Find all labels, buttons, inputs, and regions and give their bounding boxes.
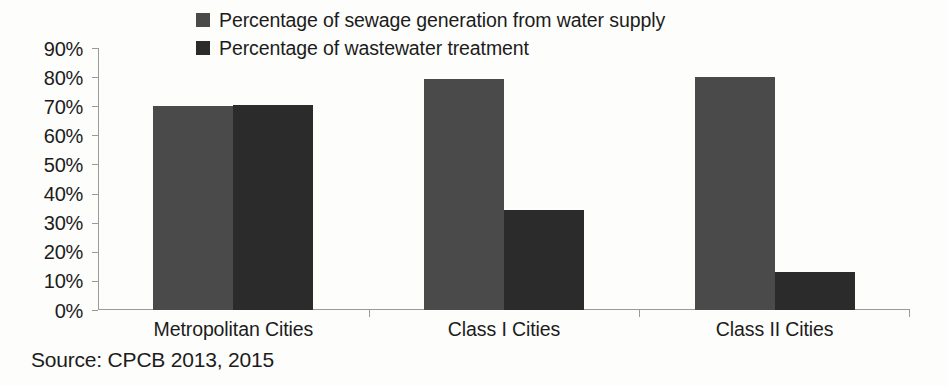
y-axis-tick-label: 0% xyxy=(55,299,83,322)
y-axis-tick-label: 20% xyxy=(44,241,83,264)
y-axis-tick-label: 50% xyxy=(44,153,83,176)
y-axis-tick: 40% xyxy=(92,194,98,195)
y-axis-tick: 0% xyxy=(92,310,98,311)
y-axis-tick-label: 70% xyxy=(44,95,83,118)
legend-swatch-sewage-generation xyxy=(196,13,210,27)
x-axis-separator-tick xyxy=(909,310,910,317)
category-label: Metropolitan Cities xyxy=(154,318,314,341)
legend-item-sewage-generation: Percentage of sewage generation from wat… xyxy=(196,8,665,32)
y-axis-tick: 30% xyxy=(92,223,98,224)
y-axis-tick-label: 10% xyxy=(44,270,83,293)
y-axis-tick-label: 80% xyxy=(44,66,83,89)
plot-area: 0%10%20%30%40%50%60%70%80%90% xyxy=(98,48,910,310)
y-axis-tick: 50% xyxy=(92,164,98,165)
x-axis-separator-tick xyxy=(639,310,640,317)
y-axis-tick: 80% xyxy=(92,77,98,78)
y-axis-tick-label: 60% xyxy=(44,124,83,147)
bar-chart-figure: Percentage of sewage generation from wat… xyxy=(0,0,948,386)
legend-label-sewage-generation: Percentage of sewage generation from wat… xyxy=(219,8,665,32)
bar xyxy=(233,105,313,310)
source-note: Source: CPCB 2013, 2015 xyxy=(31,348,274,372)
y-axis-tick: 90% xyxy=(92,48,98,49)
y-axis-tick: 70% xyxy=(92,106,98,107)
x-axis-separator-tick xyxy=(369,310,370,317)
y-axis-tick: 20% xyxy=(92,252,98,253)
y-axis-tick-label: 40% xyxy=(44,183,83,206)
y-axis-tick-label: 30% xyxy=(44,212,83,235)
y-axis-tick: 60% xyxy=(92,135,98,136)
bar xyxy=(504,210,584,310)
bar xyxy=(695,77,775,310)
bar xyxy=(153,106,233,310)
bar xyxy=(775,272,855,310)
y-axis-line xyxy=(98,48,99,310)
bar xyxy=(424,79,504,310)
y-axis-tick-label: 90% xyxy=(44,37,83,60)
y-axis-tick: 10% xyxy=(92,281,98,282)
category-label: Class I Cities xyxy=(448,318,560,341)
category-label: Class II Cities xyxy=(716,318,834,341)
